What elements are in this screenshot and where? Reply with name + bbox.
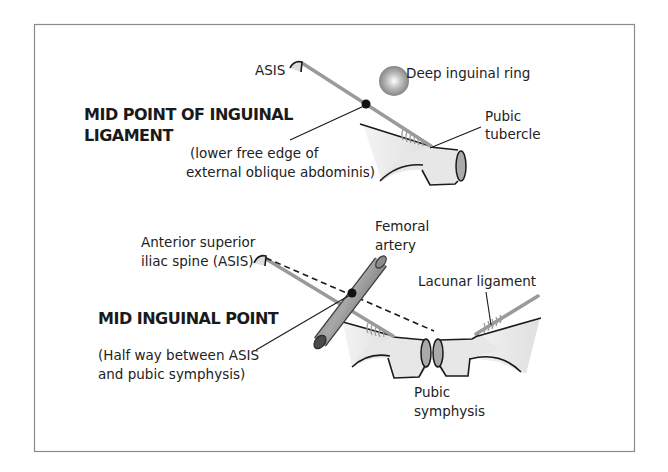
label-femoral-artery-1: Femoral	[375, 218, 429, 234]
bottom-panel: Femoral artery Anterior superior iliac s…	[98, 218, 541, 419]
label-asis-lower-1: Anterior superior	[141, 234, 256, 250]
note-lower-free-edge-1: (lower free edge of	[190, 145, 320, 161]
note-halfway-1: (Half way between ASIS	[98, 347, 259, 363]
top-panel: ASIS Deep inguinal ring Pubic tubercle M…	[84, 62, 540, 185]
leader-line	[290, 106, 364, 140]
symphysis-right-ellipse	[433, 339, 443, 367]
title-midpoint-inguinal-ligament-1: MID POINT OF INGUINAL	[84, 105, 293, 124]
title-mid-inguinal-point: MID INGUINAL POINT	[98, 309, 279, 328]
note-halfway-2: and pubic symphysis)	[98, 366, 245, 382]
leader-line	[486, 292, 491, 325]
inguinal-diagram: ASIS Deep inguinal ring Pubic tubercle M…	[0, 0, 668, 472]
label-pubic-symphysis-1: Pubic	[414, 384, 450, 400]
note-lower-free-edge-2: external oblique abdominis)	[186, 164, 375, 180]
bone-end-ellipse	[456, 151, 466, 181]
asis-hook	[290, 62, 302, 72]
label-pubic-tubercle-1: Pubic	[485, 108, 521, 124]
title-midpoint-inguinal-ligament-2: LIGAMENT	[84, 126, 173, 145]
leader-line	[430, 127, 481, 148]
label-femoral-artery-2: artery	[375, 237, 416, 253]
label-pubic-tubercle-2: tubercle	[485, 126, 540, 142]
label-deep-inguinal-ring: Deep inguinal ring	[406, 65, 530, 81]
asis-hook-lower	[254, 256, 266, 266]
label-lacunar-ligament: Lacunar ligament	[418, 273, 536, 289]
midpoint-marker	[362, 100, 371, 109]
figure-border	[35, 25, 635, 452]
deep-inguinal-ring	[379, 66, 409, 96]
label-pubic-symphysis-2: symphysis	[414, 403, 485, 419]
label-asis-lower-2: iliac spine (ASIS)	[141, 253, 254, 269]
symphysis-left-ellipse	[421, 339, 431, 367]
label-asis: ASIS	[255, 62, 285, 78]
